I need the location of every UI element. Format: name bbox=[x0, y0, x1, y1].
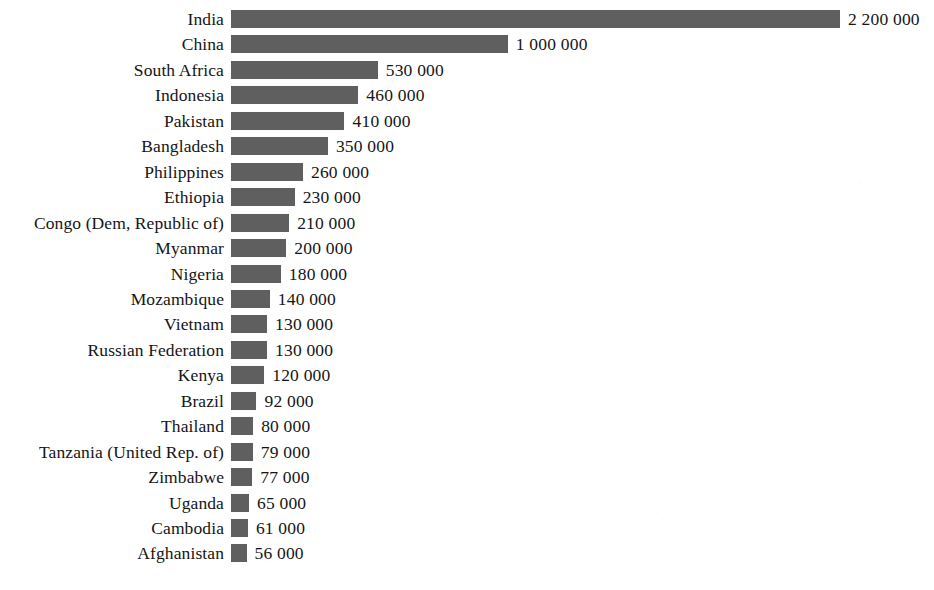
category-label: Ethiopia bbox=[0, 187, 224, 207]
bar bbox=[231, 417, 253, 435]
bar bbox=[231, 519, 248, 537]
category-label: Brazil bbox=[0, 391, 224, 411]
bar-track bbox=[231, 366, 264, 384]
bar-track bbox=[231, 188, 295, 206]
bar-track bbox=[231, 163, 303, 181]
bar-row: Kenya120 000 bbox=[0, 362, 934, 388]
bar bbox=[231, 112, 344, 130]
bar-row: Indonesia460 000 bbox=[0, 82, 934, 108]
category-label: Afghanistan bbox=[0, 543, 224, 563]
bar-track bbox=[231, 341, 267, 359]
bar bbox=[231, 86, 358, 104]
bar bbox=[231, 341, 267, 359]
category-label: Myanmar bbox=[0, 238, 224, 258]
category-label: Thailand bbox=[0, 416, 224, 436]
bar-row: Afghanistan56 000 bbox=[0, 540, 934, 566]
category-label: Uganda bbox=[0, 493, 224, 513]
bar bbox=[231, 494, 249, 512]
category-label: Bangladesh bbox=[0, 136, 224, 156]
bar bbox=[231, 290, 270, 308]
value-label: 1 000 000 bbox=[516, 34, 588, 54]
value-label: 410 000 bbox=[352, 111, 410, 131]
bar-track bbox=[231, 137, 328, 155]
bar-track bbox=[231, 494, 249, 512]
bar-track bbox=[231, 544, 247, 562]
bar-track bbox=[231, 392, 256, 410]
value-label: 180 000 bbox=[289, 264, 347, 284]
bar-track bbox=[231, 61, 378, 79]
bar-row: Bangladesh350 000 bbox=[0, 133, 934, 159]
bar-row: Mozambique140 000 bbox=[0, 286, 934, 312]
category-label: Vietnam bbox=[0, 314, 224, 334]
bar-row: Congo (Dem, Republic of)210 000 bbox=[0, 210, 934, 236]
bar-row: Cambodia61 000 bbox=[0, 515, 934, 541]
bar-track bbox=[231, 112, 344, 130]
value-label: 2 200 000 bbox=[848, 9, 920, 29]
value-label: 130 000 bbox=[275, 340, 333, 360]
value-label: 210 000 bbox=[297, 213, 355, 233]
bar bbox=[231, 61, 378, 79]
value-label: 92 000 bbox=[264, 391, 313, 411]
bar-track bbox=[231, 10, 840, 28]
value-label: 260 000 bbox=[311, 162, 369, 182]
bar-track bbox=[231, 214, 289, 232]
bar bbox=[231, 468, 252, 486]
bar bbox=[231, 214, 289, 232]
bar-row: Brazil92 000 bbox=[0, 388, 934, 414]
value-label: 200 000 bbox=[294, 238, 352, 258]
bar-row: Ethiopia230 000 bbox=[0, 184, 934, 210]
bar bbox=[231, 392, 256, 410]
value-label: 61 000 bbox=[256, 518, 305, 538]
value-label: 350 000 bbox=[336, 136, 394, 156]
bar-track bbox=[231, 86, 358, 104]
bar bbox=[231, 366, 264, 384]
bar-track bbox=[231, 519, 248, 537]
bar bbox=[231, 35, 508, 53]
bar-track bbox=[231, 239, 286, 257]
category-label: China bbox=[0, 34, 224, 54]
bar-row: China1 000 000 bbox=[0, 31, 934, 57]
category-label: Kenya bbox=[0, 365, 224, 385]
category-label: Congo (Dem, Republic of) bbox=[0, 213, 224, 233]
bar bbox=[231, 239, 286, 257]
bar-track bbox=[231, 468, 252, 486]
bar-row: Nigeria180 000 bbox=[0, 261, 934, 287]
value-label: 130 000 bbox=[275, 314, 333, 334]
bar-row: Tanzania (United Rep. of)79 000 bbox=[0, 439, 934, 465]
value-label: 56 000 bbox=[255, 543, 304, 563]
category-label: Mozambique bbox=[0, 289, 224, 309]
bar-row: Vietnam130 000 bbox=[0, 311, 934, 337]
bar-row: India2 200 000 bbox=[0, 6, 934, 32]
bar-track bbox=[231, 443, 253, 461]
category-label: Pakistan bbox=[0, 111, 224, 131]
bar-row: Russian Federation130 000 bbox=[0, 337, 934, 363]
bar-row: Uganda65 000 bbox=[0, 490, 934, 516]
bar bbox=[231, 137, 328, 155]
category-label: India bbox=[0, 9, 224, 29]
bar-track bbox=[231, 417, 253, 435]
bar-row: Zimbabwe77 000 bbox=[0, 464, 934, 490]
bar-track bbox=[231, 290, 270, 308]
category-label: Nigeria bbox=[0, 264, 224, 284]
category-label: Russian Federation bbox=[0, 340, 224, 360]
category-label: Indonesia bbox=[0, 85, 224, 105]
category-label: Cambodia bbox=[0, 518, 224, 538]
value-label: 65 000 bbox=[257, 493, 306, 513]
bar-row: Philippines260 000 bbox=[0, 159, 934, 185]
category-label: Tanzania (United Rep. of) bbox=[0, 442, 224, 462]
bar bbox=[231, 443, 253, 461]
bar bbox=[231, 163, 303, 181]
value-label: 120 000 bbox=[272, 365, 330, 385]
category-label: Philippines bbox=[0, 162, 224, 182]
bar bbox=[231, 315, 267, 333]
bar bbox=[231, 10, 840, 28]
bar-row: Myanmar200 000 bbox=[0, 235, 934, 261]
value-label: 77 000 bbox=[260, 467, 309, 487]
bar-track bbox=[231, 35, 508, 53]
bar-row: Pakistan410 000 bbox=[0, 108, 934, 134]
horizontal-bar-chart: India2 200 000China1 000 000South Africa… bbox=[0, 0, 934, 590]
bar bbox=[231, 544, 247, 562]
value-label: 530 000 bbox=[386, 60, 444, 80]
category-label: Zimbabwe bbox=[0, 467, 224, 487]
value-label: 230 000 bbox=[303, 187, 361, 207]
